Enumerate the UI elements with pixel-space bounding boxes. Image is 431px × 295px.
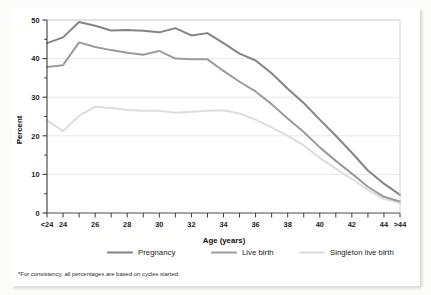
y-axis-tick-label: 30 [31,93,39,102]
y-axis-tick-label: 20 [31,132,39,141]
y-axis-tick-label: 0 [35,209,39,218]
y-axis-tick-labels-group: 01020304050 [31,16,39,218]
x-axis-tick-label: 42 [348,220,356,229]
x-axis-tick-label: 34 [219,220,228,229]
x-axis-tick-labels-group: <242426283032343638404244>44 [41,220,407,229]
x-axis-tick-label: 28 [123,220,131,229]
x-axis-ticks-group [47,213,400,218]
x-axis-tick-label: 36 [251,220,259,229]
x-axis-tick-label: 24 [59,220,68,229]
y-axis-ticks-group [43,20,48,213]
x-axis-tick-label: >44 [394,220,407,229]
x-axis-title: Age (years) [203,236,246,245]
y-axis-tick-label: 40 [31,54,39,63]
legend-label-pregnancy: Pregnancy [138,248,175,257]
x-axis-tick-label: 40 [316,220,324,229]
y-axis-title: Percent [15,115,24,144]
x-axis-tick-label: 38 [284,220,292,229]
line-chart: 01020304050 <242426283032343638404244>44… [0,0,431,295]
figure-container: 01020304050 <242426283032343638404244>44… [0,0,431,295]
legend: PregnancyLive birthSingleton live birth [108,248,394,257]
y-axis-tick-label: 10 [31,170,39,179]
x-axis-tick-label: 44 [380,220,389,229]
x-axis-tick-label: 32 [187,220,195,229]
x-axis-tick-label: 30 [155,220,163,229]
legend-label-singleton-live-birth: Singleton live birth [330,248,394,257]
x-axis-tick-label: <24 [41,220,54,229]
footnote-text: *For consistency, all percentages are ba… [18,271,180,277]
chart-plot-wrapper: 01020304050 <242426283032343638404244>44… [0,0,431,295]
legend-label-live-birth: Live birth [242,248,274,257]
y-axis-tick-label: 50 [31,16,39,25]
x-axis-tick-label: 26 [91,220,99,229]
